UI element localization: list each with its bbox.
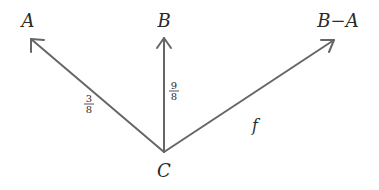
- node-label-a: A: [20, 10, 35, 31]
- edge-label-f: f: [251, 116, 261, 135]
- node-label-b-minus-a: B−A: [316, 10, 358, 31]
- fraction-numerator: 9: [171, 80, 177, 91]
- edge-c-to-b-minus-a: [164, 40, 334, 152]
- fraction-numerator: 3: [86, 93, 92, 104]
- fraction-denominator: 8: [171, 91, 177, 102]
- edge-label-3-8: 3 8: [84, 93, 94, 115]
- node-label-b: B: [156, 10, 170, 31]
- edge-c-to-a: [31, 39, 164, 152]
- diagram-canvas: A B B−A C 3 8 9 8 f: [0, 0, 379, 190]
- edge-label-9-8: 9 8: [169, 80, 179, 102]
- fraction-denominator: 8: [86, 104, 92, 115]
- node-label-c: C: [157, 160, 171, 181]
- edge-c-to-b: [157, 38, 171, 152]
